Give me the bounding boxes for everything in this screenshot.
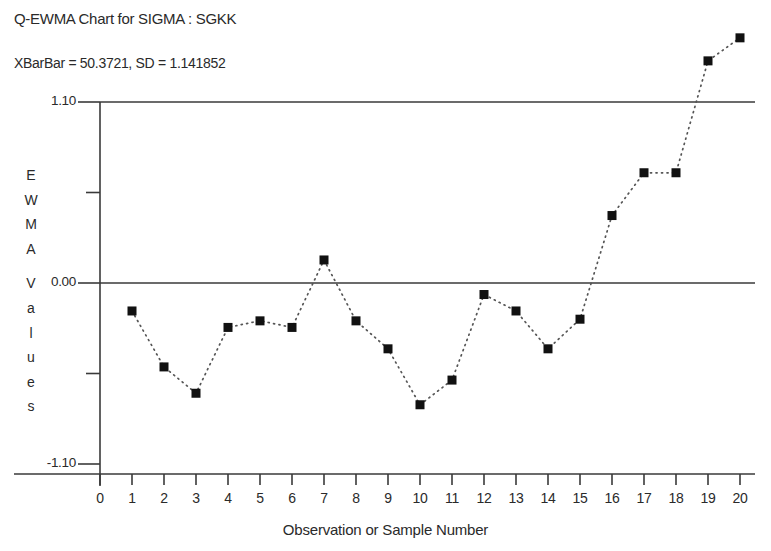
data-point-marker bbox=[192, 389, 201, 398]
q-ewma-chart: Q-EWMA Chart for SIGMA : SGKK XBarBar = … bbox=[0, 0, 771, 551]
x-axis-tick-label: 7 bbox=[309, 490, 339, 506]
data-point-marker bbox=[416, 400, 425, 409]
x-axis-tick-label: 8 bbox=[341, 490, 371, 506]
data-point-marker bbox=[704, 56, 713, 65]
x-axis-tick-label: 14 bbox=[533, 490, 563, 506]
x-axis-tick-label: 13 bbox=[501, 490, 531, 506]
data-point-marker bbox=[608, 211, 617, 220]
x-axis-tick-label: 18 bbox=[661, 490, 691, 506]
data-point-marker bbox=[544, 344, 553, 353]
data-point-marker bbox=[576, 315, 585, 324]
data-point-marker bbox=[256, 316, 265, 325]
y-axis-tick-label: 0.00 bbox=[24, 274, 76, 289]
y-axis-tick-label: -1.10 bbox=[24, 455, 76, 470]
data-series-line bbox=[132, 38, 740, 405]
x-axis-tick-label: 3 bbox=[181, 490, 211, 506]
x-axis-tick-label: 19 bbox=[693, 490, 723, 506]
plot-area bbox=[0, 0, 771, 551]
data-point-marker bbox=[448, 376, 457, 385]
data-point-marker bbox=[384, 344, 393, 353]
x-axis-tick-label: 5 bbox=[245, 490, 275, 506]
x-axis-tick-label: 20 bbox=[725, 490, 755, 506]
x-axis-tick-label: 15 bbox=[565, 490, 595, 506]
data-point-marker bbox=[160, 362, 169, 371]
x-axis-tick-label: 17 bbox=[629, 490, 659, 506]
data-point-marker bbox=[224, 323, 233, 332]
x-axis-tick-label: 6 bbox=[277, 490, 307, 506]
x-axis-tick-label: 10 bbox=[405, 490, 435, 506]
data-point-marker bbox=[288, 323, 297, 332]
data-point-marker bbox=[640, 168, 649, 177]
data-point-marker bbox=[480, 290, 489, 299]
data-point-marker bbox=[512, 306, 521, 315]
x-axis-tick-label: 16 bbox=[597, 490, 627, 506]
x-axis-tick-label: 0 bbox=[85, 490, 115, 506]
x-axis-tick-label: 11 bbox=[437, 490, 467, 506]
data-point-marker bbox=[320, 255, 329, 264]
data-point-marker bbox=[352, 316, 361, 325]
x-axis-tick-label: 12 bbox=[469, 490, 499, 506]
y-axis-tick-label: 1.10 bbox=[24, 93, 76, 108]
x-axis-tick-label: 9 bbox=[373, 490, 403, 506]
x-axis-tick-label: 1 bbox=[117, 490, 147, 506]
x-axis-tick-label: 4 bbox=[213, 490, 243, 506]
data-point-marker bbox=[672, 168, 681, 177]
data-point-marker bbox=[736, 33, 745, 42]
data-point-marker bbox=[128, 306, 137, 315]
x-axis-tick-label: 2 bbox=[149, 490, 179, 506]
